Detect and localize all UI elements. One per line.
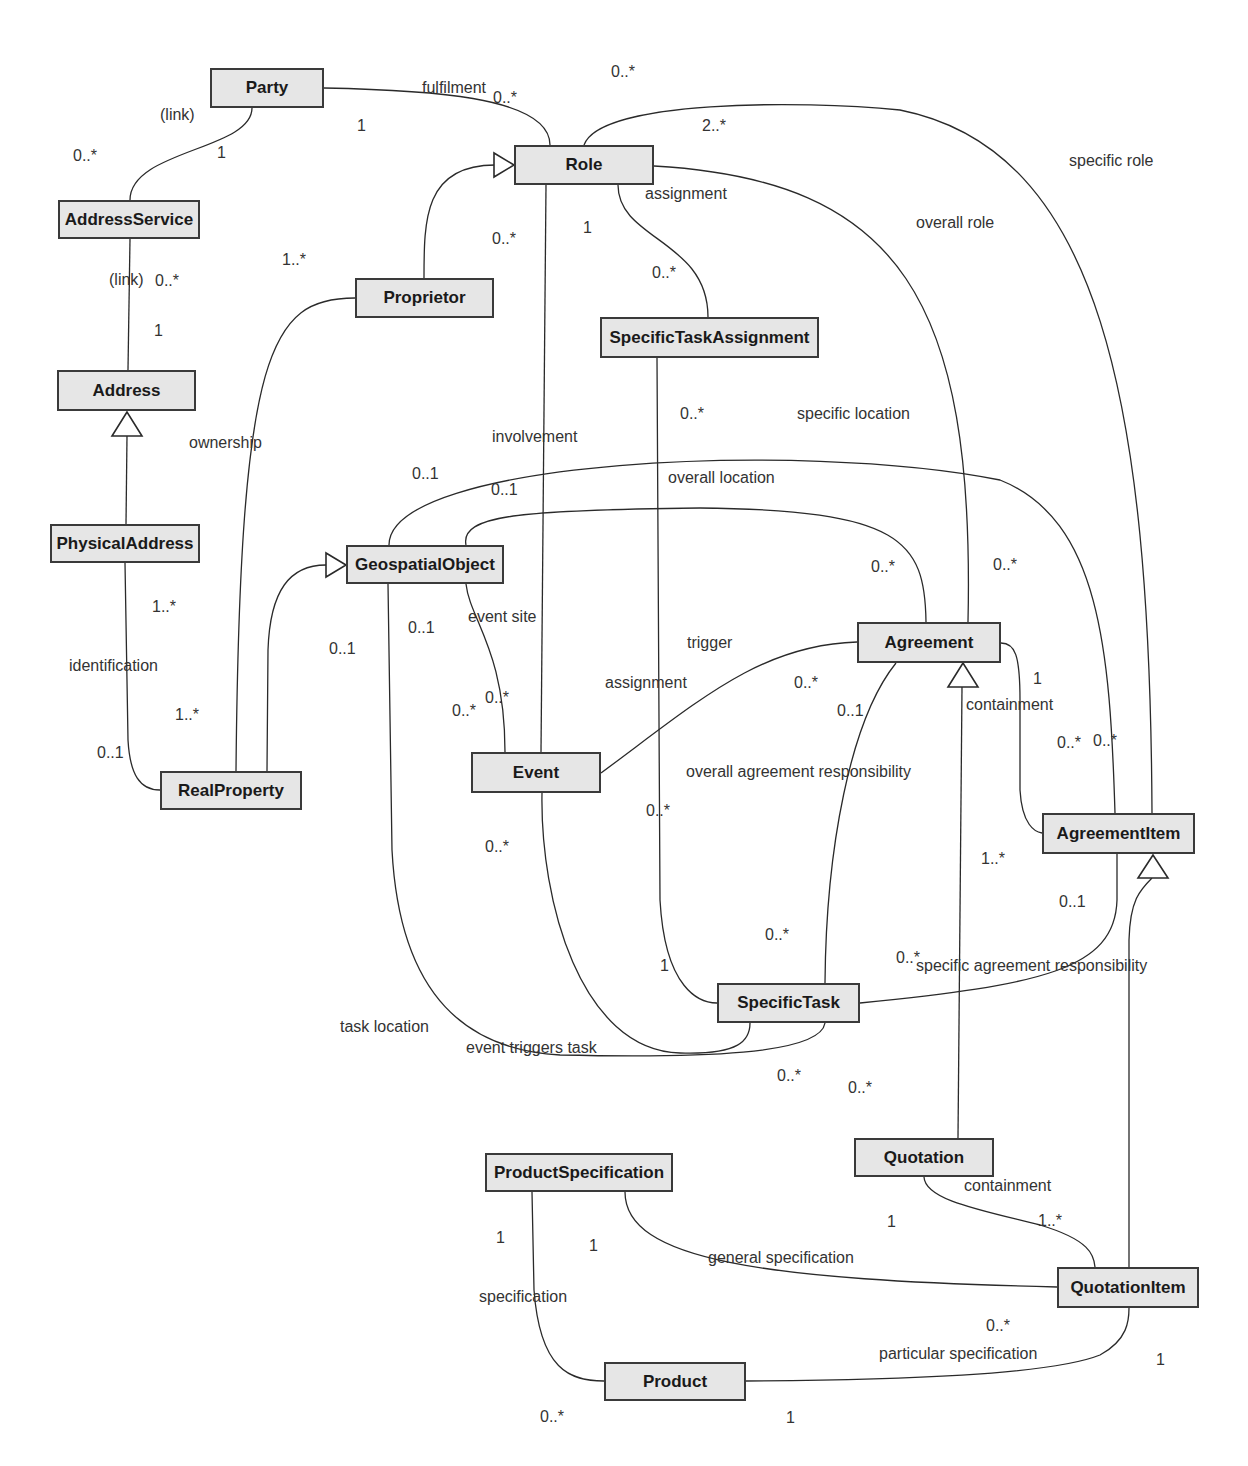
multiplicity-label: 1..*: [152, 599, 176, 615]
edge-role-agreement-overallrole: [654, 166, 968, 622]
multiplicity-label: 1: [887, 1214, 896, 1230]
multiplicity-label: 0..*: [794, 675, 818, 691]
multiplicity-label: 0..*: [993, 557, 1017, 573]
multiplicity-label: 0..1: [837, 703, 864, 719]
generalization-arrow-icon: [112, 412, 142, 436]
association-label: overall role: [916, 215, 994, 231]
edge-addressservice-address: [128, 239, 130, 370]
association-label: task location: [340, 1019, 429, 1035]
edge-role-agreementitem-specificrole: [584, 105, 1152, 813]
multiplicity-label: 1: [1156, 1352, 1165, 1368]
association-label: event triggers task: [466, 1040, 597, 1056]
association-label: assignment: [645, 186, 727, 202]
class-quotation[interactable]: Quotation: [854, 1138, 994, 1177]
association-label: specific role: [1069, 153, 1153, 169]
class-name: SpecificTask: [737, 993, 840, 1013]
class-proprietor[interactable]: Proprietor: [355, 278, 494, 318]
association-label: containment: [964, 1178, 1051, 1194]
edge-productspecification-quotationitem: [625, 1192, 1057, 1287]
multiplicity-label: 0..*: [540, 1409, 564, 1425]
class-name: Proprietor: [383, 288, 465, 308]
multiplicity-label: 0..*: [765, 927, 789, 943]
class-geospatialobject[interactable]: GeospatialObject: [346, 545, 504, 584]
multiplicity-label: 0..*: [1057, 735, 1081, 751]
edge-role-event-involvement: [541, 185, 546, 752]
class-name: ProductSpecification: [494, 1163, 664, 1183]
association-label: involvement: [492, 429, 577, 445]
generalization-arrow-icon: [494, 153, 514, 177]
association-label: containment: [966, 697, 1053, 713]
class-agreementitem[interactable]: AgreementItem: [1042, 813, 1195, 854]
multiplicity-label: 1: [583, 220, 592, 236]
multiplicity-label: 1: [786, 1410, 795, 1426]
class-name: AgreementItem: [1057, 824, 1181, 844]
association-label: trigger: [687, 635, 732, 651]
association-label: overall location: [668, 470, 775, 486]
class-name: Product: [643, 1372, 707, 1392]
multiplicity-label: 1: [154, 323, 163, 339]
multiplicity-label: 0..*: [73, 148, 97, 164]
multiplicity-label: 0..*: [485, 690, 509, 706]
class-name: Address: [92, 381, 160, 401]
multiplicity-label: 1..*: [175, 707, 199, 723]
multiplicity-label: 1: [1033, 671, 1042, 687]
multiplicity-label: 1: [217, 145, 226, 161]
association-label: particular specification: [879, 1346, 1037, 1362]
class-agreement[interactable]: Agreement: [857, 622, 1001, 663]
class-role[interactable]: Role: [514, 145, 654, 185]
edge-productspecification-product: [532, 1192, 604, 1381]
class-name: QuotationItem: [1070, 1278, 1185, 1298]
class-name: AddressService: [65, 210, 194, 230]
multiplicity-label: 0..1: [491, 482, 518, 498]
edge-quotation-agreement: [958, 687, 962, 1138]
multiplicity-label: 0..*: [871, 559, 895, 575]
class-realproperty[interactable]: RealProperty: [160, 771, 302, 810]
edge-quotationitem-agreementitem: [1129, 878, 1152, 1267]
association-label: fulfilment: [422, 80, 486, 96]
generalization-arrow-icon: [326, 553, 346, 577]
multiplicity-label: 0..*: [493, 90, 517, 106]
class-quotationitem[interactable]: QuotationItem: [1057, 1267, 1199, 1308]
class-product[interactable]: Product: [604, 1362, 746, 1401]
multiplicity-label: 0..1: [329, 641, 356, 657]
class-address[interactable]: Address: [57, 370, 196, 411]
generalization-arrow-icon: [1138, 855, 1168, 878]
edge-agreementitem-specifictask-responsibility: [860, 854, 1117, 1003]
edge-role-specifictaskassignment: [618, 185, 708, 317]
multiplicity-label: 0..*: [611, 64, 635, 80]
multiplicity-label: 0..*: [777, 1068, 801, 1084]
multiplicity-label: 0..*: [680, 406, 704, 422]
edge-proprietor-role: [424, 165, 495, 278]
association-label: (link): [160, 107, 195, 123]
class-name: Party: [246, 78, 289, 98]
multiplicity-label: 0..1: [412, 466, 439, 482]
multiplicity-label: 1..*: [282, 252, 306, 268]
edge-physicaladdress-address: [126, 436, 127, 524]
association-label: identification: [69, 658, 158, 674]
multiplicity-label: 0..*: [485, 839, 509, 855]
multiplicity-label: 0..*: [986, 1318, 1010, 1334]
class-name: SpecificTaskAssignment: [610, 328, 810, 348]
class-event[interactable]: Event: [471, 752, 601, 793]
class-name: Agreement: [885, 633, 974, 653]
multiplicity-label: 0..*: [492, 231, 516, 247]
multiplicity-label: 0..1: [97, 745, 124, 761]
multiplicity-label: 1: [660, 958, 669, 974]
generalization-arrow-icon: [948, 663, 978, 687]
association-label: ownership: [189, 435, 262, 451]
class-addressservice[interactable]: AddressService: [58, 200, 200, 239]
association-label: specification: [479, 1289, 567, 1305]
class-name: Quotation: [884, 1148, 964, 1168]
multiplicity-label: 0..*: [848, 1080, 872, 1096]
class-name: PhysicalAddress: [56, 534, 193, 554]
association-label: assignment: [605, 675, 687, 691]
class-specifictask[interactable]: SpecificTask: [717, 983, 860, 1023]
edge-geospatialobject-agreement-specificlocation: [466, 508, 926, 622]
class-name: Event: [513, 763, 559, 783]
class-productspecification[interactable]: ProductSpecification: [485, 1153, 673, 1192]
edge-proprietor-realproperty: [236, 298, 355, 771]
edge-event-agreement-trigger: [601, 642, 857, 773]
class-physicaladdress[interactable]: PhysicalAddress: [50, 524, 200, 563]
class-party[interactable]: Party: [210, 68, 324, 108]
class-specifictaskassignment[interactable]: SpecificTaskAssignment: [600, 317, 819, 358]
